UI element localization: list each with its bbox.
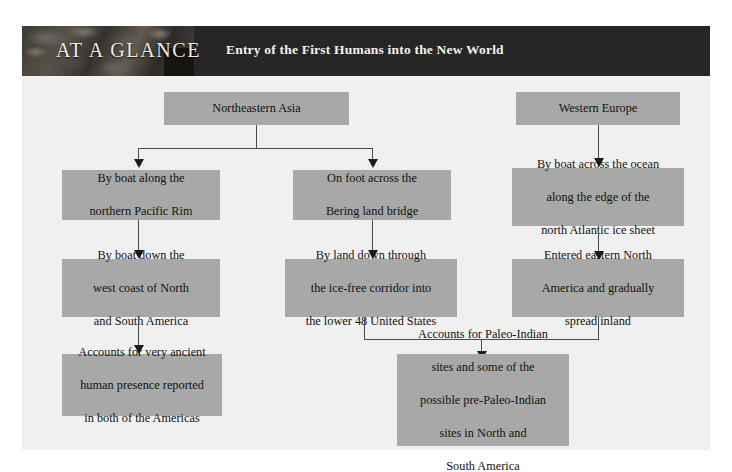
node-paleo-indian-sites: Accounts for Paleo-Indian sites and some… <box>397 354 569 446</box>
line-2: northern Pacific Rim <box>89 203 192 220</box>
line-2: west coast of North <box>93 280 189 297</box>
figure-title: Entry of the First Humans into the New W… <box>226 40 504 60</box>
node-eastern-north-america: Entered eastern North America and gradua… <box>512 259 684 317</box>
line-2: human presence reported <box>78 377 205 394</box>
line-1: On foot across the <box>326 170 418 187</box>
line-1: By boat down the <box>93 247 189 264</box>
node-boat-pacific-rim: By boat along the northern Pacific Rim <box>62 170 220 220</box>
node-paleo-indian-sites-label: Accounts for Paleo-Indian sites and some… <box>418 326 548 472</box>
connector-eastern-na-down <box>598 317 599 339</box>
line-3: in both of the Americas <box>78 410 205 427</box>
line-1: Accounts for Paleo-Indian <box>418 326 548 343</box>
line-1: By boat across the ocean <box>537 156 659 173</box>
at-a-glance-label: AT A GLANCE <box>56 34 216 66</box>
line-5: South America <box>418 458 548 472</box>
line-4: sites in North and <box>418 425 548 442</box>
connector-asia-bus <box>138 148 372 149</box>
line-3: and South America <box>93 313 189 330</box>
node-northeastern-asia-label: Northeastern Asia <box>212 100 300 117</box>
connector-asia-stem <box>256 125 257 148</box>
node-ice-free-corridor: By land down through the ice-free corrid… <box>285 259 457 317</box>
node-boat-pacific-rim-label: By boat along the northern Pacific Rim <box>89 170 192 220</box>
line-2: America and gradually <box>542 280 655 297</box>
arrowhead-asia-to-bering <box>368 159 378 168</box>
node-western-europe: Western Europe <box>516 92 680 125</box>
node-boat-atlantic-ice-sheet: By boat across the ocean along the edge … <box>512 168 684 226</box>
node-bering-land-bridge: On foot across the Bering land bridge <box>293 170 451 220</box>
node-ancient-human-presence: Accounts for very ancient human presence… <box>62 354 222 416</box>
node-boat-west-coast-label: By boat down the west coast of North and… <box>93 247 189 330</box>
line-1: By land down through <box>306 247 436 264</box>
node-northeastern-asia: Northeastern Asia <box>164 92 349 125</box>
line-3: possible pre-Paleo-Indian <box>418 392 548 409</box>
node-western-europe-label: Western Europe <box>559 100 638 117</box>
line-2: sites and some of the <box>418 359 548 376</box>
line-2: along the edge of the <box>537 189 659 206</box>
line-2: the ice-free corridor into <box>306 280 436 297</box>
node-ancient-human-presence-label: Accounts for very ancient human presence… <box>78 344 205 427</box>
line-3: the lower 48 United States <box>306 313 436 330</box>
node-bering-land-bridge-label: On foot across the Bering land bridge <box>326 170 418 220</box>
node-boat-west-coast: By boat down the west coast of North and… <box>62 259 220 317</box>
line-1: Entered eastern North <box>542 247 655 264</box>
arrowhead-asia-to-pacific-rim <box>134 159 144 168</box>
line-2: Bering land bridge <box>326 203 418 220</box>
line-1: Accounts for very ancient <box>78 344 205 361</box>
node-ice-free-corridor-label: By land down through the ice-free corrid… <box>306 247 436 330</box>
line-1: By boat along the <box>89 170 192 187</box>
at-a-glance-banner: AT A GLANCE Entry of the First Humans in… <box>22 26 710 76</box>
connector-corridor-down <box>364 317 365 339</box>
connector-europe-to-atlantic <box>598 125 599 160</box>
at-a-glance-figure: AT A GLANCE Entry of the First Humans in… <box>0 0 732 472</box>
